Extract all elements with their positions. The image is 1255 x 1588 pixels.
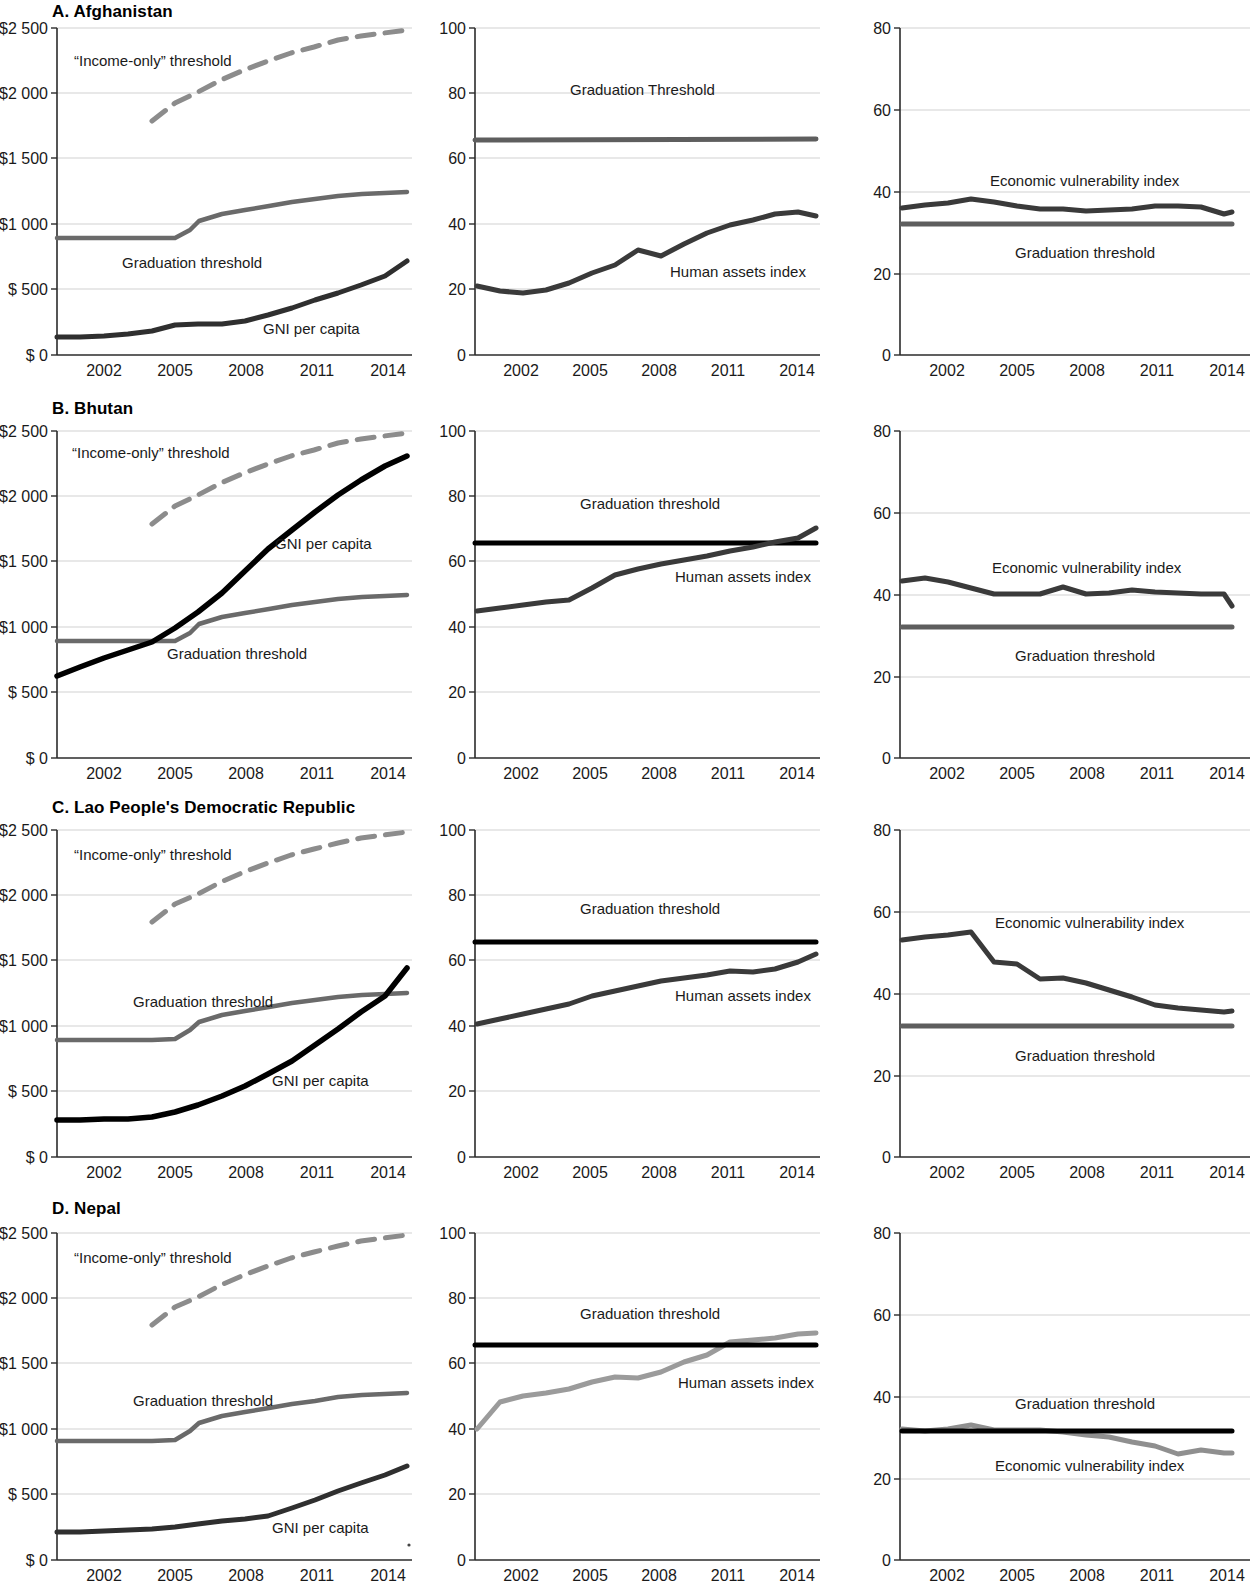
x-tick-a1-4: 2014 [370,362,406,379]
y-axis-b2: 100 80 60 40 20 0 [439,423,475,767]
annot-hai-d2: Human assets index [678,1374,814,1391]
y-tick-b1-2: $1 500 [0,553,48,570]
x-tick-a3-3: 2011 [1140,362,1175,379]
x-tick-b3-0: 2002 [929,765,965,782]
y-tick-a1-1: $2 000 [0,85,48,102]
chart-c-gni: $2 500 $2 000 $1 500 $1 000 $ 500 $ 0 20… [0,794,430,1191]
y-tick-b2-3: 40 [448,619,466,636]
x-tick-d1-3: 2011 [300,1567,335,1584]
panel-d-gni: D. Nepal $2 500 [0,1191,430,1588]
x-axis-d3: 2002 2005 2008 2011 2014 [900,1560,1250,1584]
x-tick-c1-1: 2005 [157,1164,193,1181]
gridlines-d3 [900,1233,1250,1479]
series-evi-b3 [902,578,1232,606]
x-axis-a1: 2002 2005 2008 2011 2014 [57,355,412,379]
x-tick-b2-3: 2011 [711,765,746,782]
annot-graduation-threshold-c2: Graduation threshold [580,900,720,917]
chart-a-hai: 100 80 60 40 20 0 2002 2005 2008 2011 20… [430,0,850,397]
annot-income-only-c1: “Income-only” threshold [74,846,232,863]
y-tick-a2-4: 20 [448,281,466,298]
y-tick-a2-0: 100 [439,20,466,37]
y-tick-b1-5: $ 0 [26,750,48,767]
y-tick-c1-4: $ 500 [8,1083,48,1100]
series-evi-a3 [902,199,1232,214]
y-tick-b1-1: $2 000 [0,488,48,505]
y-tick-b2-4: 20 [448,684,466,701]
series-graduation-threshold-a1 [57,192,407,238]
annot-hai-a2: Human assets index [670,263,806,280]
x-tick-a1-3: 2011 [300,362,335,379]
x-tick-c1-3: 2011 [300,1164,335,1181]
chart-b-gni: $2 500 $2 000 $1 500 $1 000 $ 500 $ 0 20… [0,397,430,794]
y-tick-c1-5: $ 0 [26,1149,48,1166]
annot-graduation-threshold-a2: Graduation Threshold [570,81,715,98]
panel-row-afghanistan: A. Afghanistan $2 500 [0,0,1255,397]
y-axis-a3: 80 60 40 20 0 [873,20,900,364]
x-tick-d3-1: 2005 [999,1567,1035,1584]
y-tick-d2-3: 40 [448,1421,466,1438]
x-axis-c2: 2002 2005 2008 2011 2014 [475,1157,820,1181]
x-tick-b3-2: 2008 [1069,765,1105,782]
y-tick-a2-2: 60 [448,150,466,167]
y-tick-c2-5: 0 [457,1149,466,1166]
annot-graduation-threshold-c1: Graduation threshold [133,993,273,1010]
annot-graduation-threshold-b2: Graduation threshold [580,495,720,512]
x-tick-c2-1: 2005 [572,1164,608,1181]
series-graduation-threshold-b1 [57,595,407,641]
x-tick-a3-2: 2008 [1069,362,1105,379]
y-tick-a2-5: 0 [457,347,466,364]
y-tick-a3-1: 60 [873,102,891,119]
y-tick-b1-0: $2 500 [0,423,48,440]
x-tick-c1-0: 2002 [86,1164,122,1181]
panel-row-nepal: D. Nepal $2 500 [0,1191,1255,1588]
annot-evi-c3: Economic vulnerability index [995,914,1185,931]
y-tick-d2-0: 100 [439,1225,466,1242]
chart-b-hai: 100 80 60 40 20 0 2002 2005 2008 2011 20… [430,397,850,794]
y-tick-c1-0: $2 500 [0,822,48,839]
x-tick-c3-1: 2005 [999,1164,1035,1181]
y-tick-b3-0: 80 [873,423,891,440]
annot-gni-b1: GNI per capita [275,535,372,552]
x-tick-d1-4: 2014 [370,1567,406,1584]
annot-graduation-threshold-b1: Graduation threshold [167,645,307,662]
panel-d-evi: 80 60 40 20 0 2002 2005 2008 2011 2014 G… [850,1191,1255,1588]
x-tick-a1-0: 2002 [86,362,122,379]
annot-evi-b3: Economic vulnerability index [992,559,1182,576]
panel-c-evi: 80 60 40 20 0 2002 2005 2008 2011 2014 E… [850,794,1255,1191]
gridlines-b2 [475,431,820,692]
panel-b-evi: 80 60 40 20 0 2002 2005 2008 2011 2014 E… [850,397,1255,794]
y-tick-a3-3: 20 [873,266,891,283]
y-tick-b2-0: 100 [439,423,466,440]
x-tick-c1-2: 2008 [228,1164,264,1181]
x-axis-d2: 2002 2005 2008 2011 2014 [475,1560,820,1584]
y-tick-d2-1: 80 [448,1290,466,1307]
y-axis-b3: 80 60 40 20 0 [873,423,900,767]
panel-d-hai: 100 80 60 40 20 0 2002 2005 2008 2011 20… [430,1191,850,1588]
x-axis-a2: 2002 2005 2008 2011 2014 [475,355,820,379]
y-tick-c3-4: 0 [882,1149,891,1166]
gridlines-b3 [900,431,1250,677]
y-tick-c3-1: 60 [873,904,891,921]
panel-b-gni: B. Bhutan $2 500 [0,397,430,794]
x-tick-d3-3: 2011 [1140,1567,1175,1584]
annot-graduation-threshold-d3: Graduation threshold [1015,1395,1155,1412]
annot-evi-d3: Economic vulnerability index [995,1457,1185,1474]
chart-c-hai: 100 80 60 40 20 0 2002 2005 2008 2011 20… [430,794,850,1191]
y-axis-c3: 80 60 40 20 0 [873,822,900,1166]
x-tick-b3-1: 2005 [999,765,1035,782]
x-tick-b2-2: 2008 [641,765,677,782]
y-tick-c2-1: 80 [448,887,466,904]
y-tick-b2-1: 80 [448,488,466,505]
y-tick-d1-2: $1 500 [0,1355,48,1372]
gridlines-a3 [900,28,1250,274]
annot-graduation-threshold-b3: Graduation threshold [1015,647,1155,664]
x-tick-d2-4: 2014 [779,1567,815,1584]
x-tick-d1-1: 2005 [157,1567,193,1584]
x-tick-a1-2: 2008 [228,362,264,379]
gridlines-a2 [475,28,820,289]
y-tick-c1-3: $1 000 [0,1018,48,1035]
annot-gni-d1: GNI per capita [272,1519,369,1536]
gridlines-c2 [475,830,820,1091]
x-tick-a3-1: 2005 [999,362,1035,379]
y-tick-b2-5: 0 [457,750,466,767]
